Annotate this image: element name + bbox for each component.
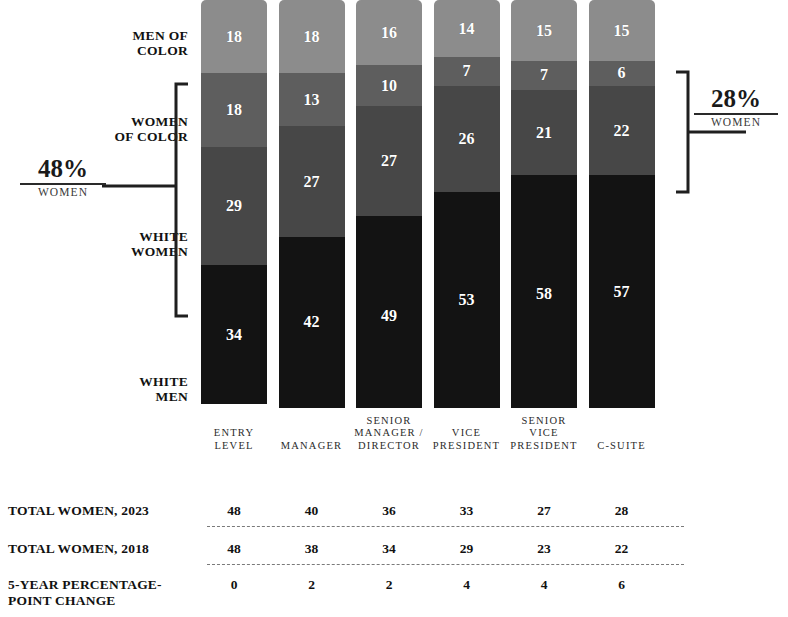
segment-white-men: 34 [201, 265, 267, 404]
x-axis-label-6: C-SUITE [574, 440, 670, 453]
table-cell: 27 [511, 503, 577, 519]
segment-white-women: 29 [201, 147, 267, 265]
row-label-five-year-change: 5-YEAR PERCENTAGE-POINT CHANGE [8, 577, 208, 609]
segment-value: 15 [536, 22, 552, 40]
segment-white-men: 42 [279, 237, 345, 408]
table-row-divider [207, 526, 684, 527]
x-axis-label-line: SENIOR [496, 415, 592, 428]
table-cell: 4 [511, 577, 577, 593]
table-cell: 34 [356, 541, 422, 557]
segment-men-of-color: 16 [356, 0, 422, 65]
segment-value: 26 [459, 130, 475, 148]
segment-value: 27 [381, 152, 397, 170]
stacked-bar-chart: MEN OF COLOR WOMEN OF COLOR WHITE WOMEN … [0, 0, 788, 495]
bar-c-suite: 1562257 [589, 0, 655, 408]
x-axis-label-line: SENIOR [341, 415, 437, 428]
table-cell: 36 [356, 503, 422, 519]
row-label-total-women-2023: TOTAL WOMEN, 2023 [8, 503, 208, 519]
table-cell: 0 [201, 577, 267, 593]
bar-senior-manager-director: 16102749 [356, 0, 422, 408]
segment-value: 16 [381, 24, 397, 42]
segment-women-of-color: 6 [589, 61, 655, 85]
x-axis-label-line: VICE [496, 427, 592, 440]
table-cell: 4 [434, 577, 500, 593]
segment-men-of-color: 15 [589, 0, 655, 61]
segment-women-of-color: 18 [201, 73, 267, 146]
bar-entry-level: 18182934 [201, 0, 267, 408]
row-label-line: POINT CHANGE [8, 593, 208, 609]
segment-white-men: 53 [434, 192, 500, 408]
bar-senior-vice-president: 1572158 [511, 0, 577, 408]
row-label-line: 5-YEAR PERCENTAGE- [8, 577, 208, 593]
segment-men-of-color: 15 [511, 0, 577, 61]
bar-manager: 18132742 [279, 0, 345, 408]
table-cell: 22 [589, 541, 655, 557]
segment-value: 58 [536, 285, 552, 303]
segment-white-women: 21 [511, 90, 577, 176]
segment-value: 53 [459, 291, 475, 309]
table-cell: 48 [201, 541, 267, 557]
row-label-total-women-2018: TOTAL WOMEN, 2018 [8, 541, 208, 557]
segment-value: 49 [381, 307, 397, 325]
segment-white-men: 49 [356, 216, 422, 408]
table-cell: 2 [279, 577, 345, 593]
segment-value: 29 [226, 197, 242, 215]
segment-value: 14 [459, 20, 475, 38]
segment-men-of-color: 14 [434, 0, 500, 57]
segment-value: 34 [226, 326, 242, 344]
segment-value: 21 [536, 124, 552, 142]
segment-value: 18 [226, 28, 242, 46]
segment-value: 27 [304, 173, 320, 191]
table-cell: 40 [279, 503, 345, 519]
table-cell: 38 [279, 541, 345, 557]
segment-white-women: 27 [356, 106, 422, 216]
segment-value: 22 [614, 122, 630, 140]
segment-value: 57 [614, 283, 630, 301]
table-cell: 23 [511, 541, 577, 557]
segment-women-of-color: 13 [279, 73, 345, 126]
segment-value: 18 [226, 101, 242, 119]
summary-table: TOTAL WOMEN, 2023484036332728TOTAL WOMEN… [0, 495, 788, 617]
segment-value: 7 [540, 66, 548, 84]
segment-women-of-color: 10 [356, 65, 422, 106]
segment-value: 13 [304, 91, 320, 109]
segment-women-of-color: 7 [511, 61, 577, 90]
table-cell: 6 [589, 577, 655, 593]
bar-group: 18182934ENTRYLEVEL18132742MANAGER1610274… [0, 0, 788, 460]
table-row-divider [207, 564, 684, 565]
segment-white-women: 27 [279, 126, 345, 236]
segment-white-women: 22 [589, 86, 655, 176]
table-cell: 28 [589, 503, 655, 519]
segment-men-of-color: 18 [201, 0, 267, 73]
table-row: TOTAL WOMEN, 2023484036332728 [0, 503, 788, 535]
segment-value: 18 [304, 28, 320, 46]
table-cell: 29 [434, 541, 500, 557]
segment-women-of-color: 7 [434, 57, 500, 86]
bar-vice-president: 1472653 [434, 0, 500, 408]
table-cell: 48 [201, 503, 267, 519]
x-axis-label-line: ENTRY [186, 427, 282, 440]
segment-value: 42 [304, 313, 320, 331]
table-cell: 2 [356, 577, 422, 593]
segment-white-women: 26 [434, 86, 500, 192]
segment-value: 10 [381, 77, 397, 95]
x-axis-label-line: C-SUITE [574, 440, 670, 453]
table-row: 5-YEAR PERCENTAGE-POINT CHANGE022446 [0, 577, 788, 609]
table-row: TOTAL WOMEN, 2018483834292322 [0, 541, 788, 573]
segment-value: 15 [614, 22, 630, 40]
segment-white-men: 57 [589, 175, 655, 408]
table-cell: 33 [434, 503, 500, 519]
segment-value: 7 [463, 62, 471, 80]
segment-men-of-color: 18 [279, 0, 345, 73]
segment-value: 6 [618, 64, 626, 82]
segment-white-men: 58 [511, 175, 577, 408]
